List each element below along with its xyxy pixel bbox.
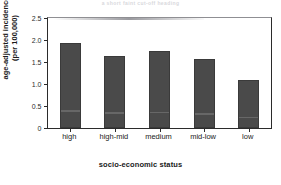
y-axis-tick: 2.5 xyxy=(44,18,48,19)
x-axis-tick xyxy=(70,128,71,132)
bar xyxy=(60,43,81,127)
y-axis-tick-label: 2.5 xyxy=(32,14,42,23)
y-axis-tick: 2.0 xyxy=(44,40,48,41)
y-axis-tick-label: 1.0 xyxy=(32,80,42,89)
x-axis-tick xyxy=(204,128,205,132)
bar-chart-figure: a short faint cut-off heading age-adjust… xyxy=(0,0,281,185)
bar xyxy=(194,59,215,128)
x-axis-tick xyxy=(115,128,116,132)
y-axis-tick-label: 0.5 xyxy=(32,102,42,111)
figure-title-faint: a short faint cut-off heading xyxy=(0,0,281,7)
scan-smudge xyxy=(54,18,204,20)
y-axis-tick: 0 xyxy=(44,128,48,129)
x-axis-tick-label: medium xyxy=(145,132,172,141)
y-axis-tick: 0.5 xyxy=(44,106,48,107)
y-axis-tick-label: 1.5 xyxy=(32,58,42,67)
y-axis-title-line-2: (per 100,000) xyxy=(10,15,20,61)
x-axis-tick xyxy=(160,128,161,132)
y-axis-tick: 1.5 xyxy=(44,62,48,63)
x-axis-tick-label: high-mid xyxy=(100,132,129,141)
x-axis-tick xyxy=(249,128,250,132)
y-axis-tick-label: 0 xyxy=(38,124,42,133)
plot-area: 00.51.01.52.02.5 xyxy=(47,17,272,129)
x-axis-tick-label: mid-low xyxy=(190,132,216,141)
y-axis-tick: 1.0 xyxy=(44,84,48,85)
x-axis-tick-label: low xyxy=(242,132,253,141)
bar xyxy=(104,56,125,128)
y-axis-title: age-adjusted incidence (per 100,000) xyxy=(0,0,21,93)
bar xyxy=(149,51,170,127)
x-axis-title: socio-economic status xyxy=(0,160,281,169)
x-axis-tick-label: high xyxy=(62,132,76,141)
bar xyxy=(238,80,259,128)
y-axis-title-line-1: age-adjusted incidence xyxy=(1,0,11,79)
y-axis-tick-label: 2.0 xyxy=(32,36,42,45)
